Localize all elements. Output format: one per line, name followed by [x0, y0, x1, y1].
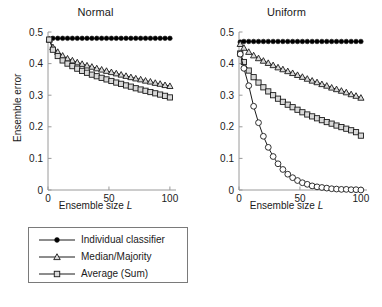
marker-open-square — [349, 128, 354, 133]
legend-marker-open-triangle — [37, 250, 77, 264]
marker-filled-circle — [75, 36, 80, 41]
marker-open-square — [358, 133, 363, 138]
marker-filled-circle — [153, 36, 158, 41]
y-tick-label: 0.3 — [29, 90, 43, 101]
marker-open-square — [353, 130, 358, 135]
marker-open-circle — [237, 51, 243, 57]
x-axis-label-text: Ensemble size — [59, 200, 127, 211]
marker-filled-circle — [271, 39, 276, 44]
marker-open-square — [158, 92, 163, 97]
marker-filled-circle — [359, 39, 364, 44]
marker-filled-circle — [256, 39, 261, 44]
marker-filled-circle — [305, 39, 310, 44]
marker-filled-circle — [163, 36, 168, 41]
marker-open-square — [280, 99, 285, 104]
marker-open-square — [143, 88, 148, 93]
y-tick-label: 0.5 — [220, 27, 234, 38]
marker-open-square — [319, 118, 324, 123]
series-line — [49, 40, 170, 98]
y-axis-label-normal: Ensemble error — [12, 74, 23, 142]
legend-item: Average (Sum) — [29, 265, 187, 282]
marker-open-square — [99, 75, 104, 80]
marker-filled-circle — [276, 39, 281, 44]
marker-filled-circle — [290, 39, 295, 44]
marker-filled-circle — [242, 39, 247, 44]
marker-open-square — [54, 271, 59, 276]
marker-open-square — [70, 64, 75, 69]
series-median-majority — [237, 41, 364, 100]
marker-open-square — [50, 47, 55, 52]
marker-open-square — [133, 86, 138, 91]
marker-filled-circle — [119, 36, 124, 41]
marker-open-square — [94, 74, 99, 79]
marker-open-circle — [265, 144, 271, 150]
marker-open-circle — [241, 65, 247, 71]
marker-filled-circle — [354, 39, 359, 44]
marker-filled-circle — [344, 39, 349, 44]
y-tick-label: 0 — [37, 185, 43, 196]
marker-open-square — [314, 116, 319, 121]
marker-filled-circle — [55, 36, 60, 41]
marker-open-square — [344, 126, 349, 131]
marker-filled-circle — [148, 36, 153, 41]
marker-filled-circle — [129, 36, 134, 41]
marker-open-circle — [260, 133, 266, 139]
marker-filled-circle — [310, 39, 315, 44]
legend-item-label: Median/Majority — [81, 251, 152, 262]
y-tick-label: 0.1 — [29, 153, 43, 164]
marker-filled-circle — [109, 36, 114, 41]
marker-filled-circle — [266, 39, 271, 44]
marker-open-square — [266, 89, 271, 94]
marker-open-square — [295, 107, 300, 112]
series-min-max — [237, 51, 363, 193]
marker-filled-circle — [94, 36, 99, 41]
marker-open-square — [138, 87, 143, 92]
legend-item-label: Individual classifier — [81, 234, 165, 245]
marker-filled-circle — [246, 39, 251, 44]
marker-filled-circle — [55, 237, 60, 242]
x-axis-label-uniform: Ensemble size L — [191, 200, 382, 211]
y-tick-label: 0.4 — [29, 58, 43, 69]
marker-filled-circle — [300, 39, 305, 44]
plot-area-normal: 00.10.20.30.40.5050100 — [0, 0, 191, 215]
y-tick-label: 0.4 — [220, 58, 234, 69]
series-average-sum — [47, 37, 173, 100]
legend-marker-filled-circle — [37, 233, 77, 247]
ensemble-error-figure: Normal 00.10.20.30.40.5050100 Ensemble e… — [0, 0, 382, 307]
marker-filled-circle — [324, 39, 329, 44]
marker-open-square — [104, 77, 109, 82]
marker-open-square — [89, 72, 94, 77]
legend-marker-open-square — [37, 267, 77, 281]
marker-open-square — [84, 70, 89, 75]
marker-open-square — [162, 93, 167, 98]
marker-filled-circle — [143, 36, 148, 41]
marker-open-square — [109, 78, 114, 83]
marker-open-square — [324, 119, 329, 124]
chart-panel-uniform: Uniform 00.10.20.30.40.5050100 Ensemble … — [191, 0, 382, 307]
marker-open-square — [329, 121, 334, 126]
series-individual-classifier — [47, 36, 172, 42]
marker-open-square — [290, 105, 295, 110]
marker-filled-circle — [329, 39, 334, 44]
marker-open-circle — [256, 120, 262, 126]
y-tick-label: 0.2 — [220, 121, 234, 132]
marker-filled-circle — [138, 36, 143, 41]
x-axis-label-symbol: L — [127, 200, 133, 211]
marker-open-square — [153, 91, 158, 96]
legend-item: Individual classifier — [29, 231, 187, 248]
marker-filled-circle — [285, 39, 290, 44]
marker-open-square — [339, 125, 344, 130]
marker-filled-circle — [158, 36, 163, 41]
marker-filled-circle — [124, 36, 129, 41]
marker-filled-circle — [60, 36, 65, 41]
marker-open-square — [148, 89, 153, 94]
marker-filled-circle — [70, 36, 75, 41]
marker-open-square — [47, 37, 52, 42]
marker-open-square — [256, 80, 261, 85]
series-individual-classifier — [238, 39, 363, 44]
marker-filled-circle — [133, 36, 138, 41]
y-tick-label: 0.5 — [29, 27, 43, 38]
plot-area-uniform: 00.10.20.30.40.5050100 — [191, 0, 382, 215]
marker-filled-circle — [114, 36, 119, 41]
y-tick-label: 0.3 — [220, 90, 234, 101]
